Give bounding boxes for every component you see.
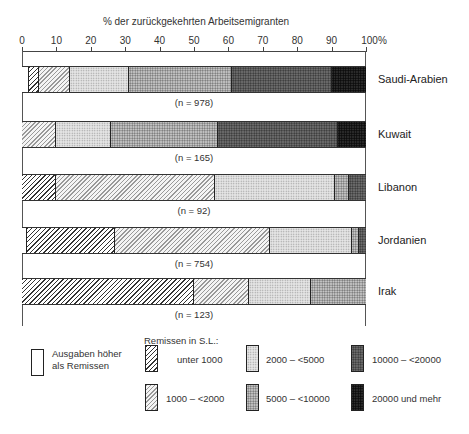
bar-irak xyxy=(22,278,366,305)
legend-label-2000-5000: 2000 – <5000 xyxy=(266,354,324,365)
legend-label-expenses-2: als Remissen xyxy=(52,360,109,371)
x-tick-label: 50 xyxy=(188,35,199,46)
legend-swatch-2000-5000 xyxy=(246,345,259,372)
sample-size-label: (n = 754) xyxy=(22,258,366,269)
bar-segment xyxy=(249,279,311,304)
legend-swatch-1000-2000 xyxy=(145,384,158,411)
axis-title: % der zurückgekehrten Arbeitsemigranten xyxy=(0,16,392,27)
bar-segment xyxy=(56,175,214,200)
legend-label-20000-plus: 20000 und mehr xyxy=(372,393,441,404)
bar-segment xyxy=(22,279,194,304)
sample-size-label: (n = 978) xyxy=(22,97,366,108)
bar-segment xyxy=(111,122,218,147)
sample-size-label: (n = 92) xyxy=(22,205,366,216)
legend-swatch-expenses xyxy=(31,349,44,376)
x-tick-label: 0 xyxy=(19,35,25,46)
x-tick-label: 90 xyxy=(326,35,337,46)
bar-segment xyxy=(194,279,249,304)
bar-segment xyxy=(338,122,366,147)
sample-size-label: (n = 123) xyxy=(22,309,366,320)
legend-swatch-unter-1000 xyxy=(145,345,158,372)
bar-segment xyxy=(349,175,366,200)
x-tick-label: 10 xyxy=(51,35,62,46)
sample-size-label: (n = 165) xyxy=(22,152,366,163)
legend-label-1000-2000: 1000 – <2000 xyxy=(166,393,224,404)
x-tick-label: 20 xyxy=(85,35,96,46)
bar-segment xyxy=(129,67,232,92)
bar-segment xyxy=(115,228,270,253)
bar-segment xyxy=(39,67,70,92)
bar-segment xyxy=(22,175,56,200)
bar-kuwait xyxy=(22,121,366,148)
x-tick-label: 60 xyxy=(223,35,234,46)
legend-swatch-5000-10000 xyxy=(246,384,259,411)
legend-label-unter-1000: unter 1000 xyxy=(177,354,222,365)
row-label: Jordanien xyxy=(378,234,426,246)
legend-swatch-10000-20000 xyxy=(351,345,364,372)
legend-swatch-20000-plus xyxy=(351,384,364,411)
bar-segment xyxy=(352,228,359,253)
x-tick-label: 100% xyxy=(361,35,387,46)
bar-segment xyxy=(232,67,332,92)
bar-segment xyxy=(270,228,353,253)
x-tick-label: 40 xyxy=(154,35,165,46)
bar-segment xyxy=(70,67,128,92)
bar-segment xyxy=(22,122,56,147)
bar-segment xyxy=(22,67,29,92)
x-axis-line xyxy=(22,51,366,52)
bar-segment xyxy=(332,67,366,92)
x-tick-label: 70 xyxy=(257,35,268,46)
x-tick xyxy=(366,47,367,52)
legend-label-10000-20000: 10000 – <20000 xyxy=(372,354,441,365)
bar-segment xyxy=(215,175,335,200)
bar-segment xyxy=(359,228,366,253)
bar-segment xyxy=(27,228,115,253)
row-label: Saudi-Arabien xyxy=(378,73,448,85)
row-label: Kuwait xyxy=(378,128,411,140)
bar-segment xyxy=(56,122,111,147)
bar-saudi-arabien xyxy=(22,66,366,93)
x-tick-label: 80 xyxy=(292,35,303,46)
legend-label-expenses-1: Ausgaben höher xyxy=(52,348,122,359)
row-label: Libanon xyxy=(378,181,417,193)
bar-jordanien xyxy=(22,227,366,254)
bar-segment xyxy=(218,122,338,147)
legend-label-5000-10000: 5000 – <10000 xyxy=(266,393,330,404)
bar-segment xyxy=(29,67,39,92)
bar-libanon xyxy=(22,174,366,201)
bar-segment xyxy=(335,175,349,200)
bar-segment xyxy=(311,279,366,304)
x-tick-label: 30 xyxy=(120,35,131,46)
row-label: Irak xyxy=(378,285,396,297)
